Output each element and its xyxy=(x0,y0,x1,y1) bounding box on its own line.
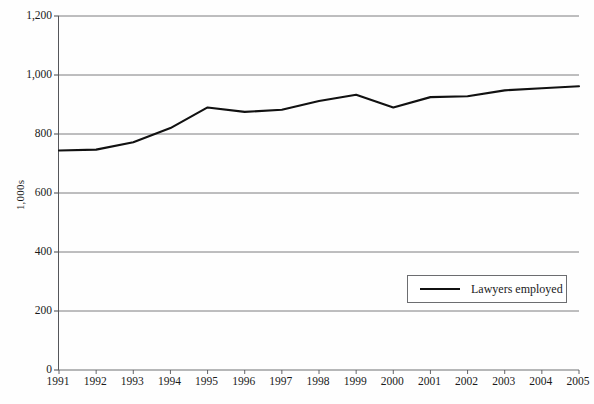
gridlines xyxy=(59,16,579,370)
x-tick-label-1993: 1993 xyxy=(121,376,144,388)
x-tick-label-1999: 1999 xyxy=(344,376,367,388)
legend-line-swatch xyxy=(420,288,460,290)
x-tick-label-1992: 1992 xyxy=(84,376,107,388)
chart-legend: Lawyers employed xyxy=(407,275,567,303)
x-tick-label-2003: 2003 xyxy=(492,376,515,388)
y-tick-label-400: 400 xyxy=(6,246,52,258)
y-tick-label-0: 0 xyxy=(6,364,52,376)
x-tick-label-2005: 2005 xyxy=(567,376,590,388)
x-tick-label-1994: 1994 xyxy=(158,376,181,388)
x-tick-label-1995: 1995 xyxy=(195,376,218,388)
x-tick-label-1991: 1991 xyxy=(47,376,70,388)
x-tick-label-2001: 2001 xyxy=(418,376,441,388)
y-tick-label-600: 600 xyxy=(6,187,52,199)
y-axis-tick-labels: 1,2001,0008006004002000 xyxy=(2,0,52,404)
y-tick-label-1000: 1,000 xyxy=(6,69,52,81)
legend-item-label: Lawyers employed xyxy=(471,283,563,295)
x-tick-label-2004: 2004 xyxy=(529,376,552,388)
line-chart: 1,000s 1,2001,0008006004002000 199119921… xyxy=(0,0,594,404)
x-tick-label-1997: 1997 xyxy=(269,376,292,388)
y-axis-tick-marks xyxy=(54,16,59,370)
x-tick-label-2000: 2000 xyxy=(381,376,404,388)
x-tick-label-1996: 1996 xyxy=(232,376,255,388)
y-tick-label-200: 200 xyxy=(6,305,52,317)
x-tick-label-1998: 1998 xyxy=(307,376,330,388)
y-tick-label-1200: 1,200 xyxy=(6,10,52,22)
plot-area xyxy=(58,16,578,370)
x-axis-tick-labels: 1991199219931994199519961997199819992000… xyxy=(58,372,578,396)
x-tick-label-2002: 2002 xyxy=(455,376,478,388)
series-line-lawyers-employed xyxy=(59,86,579,150)
y-tick-label-800: 800 xyxy=(6,128,52,140)
plot-svg xyxy=(59,16,579,370)
